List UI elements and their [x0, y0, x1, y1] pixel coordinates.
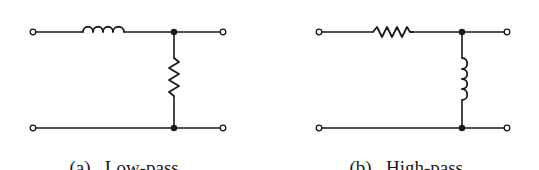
output-terminal-top [504, 29, 510, 35]
low-pass-circuit [30, 27, 226, 131]
input-terminal-top [30, 29, 36, 35]
output-terminal-bottom [504, 125, 510, 131]
series-inductor-icon [83, 27, 124, 32]
caption-tag: (b) [350, 157, 372, 170]
high-pass-circuit [316, 27, 510, 131]
junction-node-top [171, 29, 177, 35]
caption-high-pass: (b) High-pass [340, 139, 463, 170]
input-terminal-bottom [30, 125, 36, 131]
caption-tag: (a) [70, 157, 91, 170]
caption-title: Low-pass [105, 157, 179, 170]
output-terminal-top [220, 29, 226, 35]
output-terminal-bottom [220, 125, 226, 131]
series-resistor-icon [373, 27, 413, 37]
junction-node-bottom [171, 125, 177, 131]
caption-low-pass: (a) Low-pass [60, 139, 179, 170]
shunt-resistor-icon [169, 58, 179, 96]
input-terminal-bottom [316, 125, 322, 131]
caption-title: High-pass [386, 157, 463, 170]
shunt-inductor-icon [462, 58, 467, 100]
junction-node-top [459, 29, 465, 35]
input-terminal-top [316, 29, 322, 35]
junction-node-bottom [459, 125, 465, 131]
